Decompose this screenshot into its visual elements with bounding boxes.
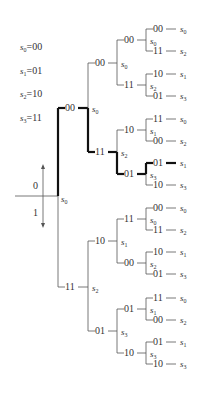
svg-text:11: 11 (95, 146, 105, 157)
svg-text:00: 00 (124, 34, 134, 45)
state-l4-8: s0 (180, 203, 187, 214)
branch-l4-8: 00 (153, 202, 163, 213)
root-state-label: s0 (61, 194, 68, 205)
state-l1-1: s2 (92, 283, 99, 294)
root-axis: 0 1 s0 (15, 164, 68, 228)
legend-s2: s2=10 (20, 88, 42, 100)
legend-s1: s1=01 (20, 65, 42, 77)
state-l4-12: s0 (180, 293, 187, 304)
level-2: 00 s0 11 s2 10 s1 01 s3 (88, 57, 128, 338)
level-3: 00 s0 11 s2 10 s1 01 s3 11 s0 00 s2 01 s… (117, 34, 157, 360)
branch-l4-15: 10 (153, 358, 163, 369)
state-l4-4: s0 (180, 114, 187, 125)
legend-s0: s0=00 (20, 41, 42, 53)
branch-l1-0: 00 (65, 102, 75, 113)
svg-text:s0: s0 (121, 59, 128, 70)
state-legend: s0=00 s1=01 s2=10 s3=11 (20, 41, 42, 124)
svg-text:s3: s3 (121, 327, 128, 338)
branch-l4-12: 11 (153, 292, 163, 303)
input-zero-label: 0 (33, 180, 38, 191)
branch-l4-13: 00 (153, 314, 163, 325)
branch-l4-0: 00 (153, 23, 163, 34)
state-l4-15: s3 (180, 359, 187, 370)
svg-text:00: 00 (95, 57, 105, 68)
arrow-down-icon (41, 223, 45, 228)
state-l4-7: s3 (180, 180, 187, 191)
state-l4-11: s3 (180, 269, 187, 280)
svg-text:11: 11 (124, 213, 134, 224)
branch-l4-4: 11 (153, 113, 163, 124)
branch-l4-14: 01 (153, 336, 163, 347)
svg-text:11: 11 (124, 79, 134, 90)
state-l4-13: s2 (180, 315, 187, 326)
svg-text:01: 01 (124, 303, 134, 314)
state-l4-9: s2 (180, 225, 187, 236)
state-l4-10: s1 (180, 247, 187, 258)
state-l4-3: s3 (180, 91, 187, 102)
state-l4-5: s2 (180, 136, 187, 147)
state-l4-0: s0 (180, 24, 187, 35)
branch-l4-7: 10 (153, 179, 163, 190)
svg-text:10: 10 (95, 235, 105, 246)
state-l4-2: s1 (180, 69, 187, 80)
svg-text:01: 01 (124, 168, 134, 179)
svg-text:10: 10 (124, 124, 134, 135)
branch-l4-1: 11 (153, 45, 163, 56)
svg-text:10: 10 (124, 347, 134, 358)
input-one-label: 1 (33, 207, 38, 218)
legend-s3: s3=11 (20, 112, 42, 124)
branch-l1-1: 11 (65, 281, 75, 292)
branch-l4-9: 11 (153, 224, 163, 235)
state-l4-1: s2 (180, 46, 187, 57)
state-l4-14: s1 (180, 337, 187, 348)
branch-l4-6: 01 (153, 157, 163, 168)
svg-text:s2: s2 (121, 148, 128, 159)
trellis-tree-diagram: s0=00 s1=01 s2=10 s3=11 0 1 s0 00 s0 11 … (0, 0, 199, 395)
arrow-up-icon (41, 164, 45, 169)
branch-l4-11: 01 (153, 268, 163, 279)
state-l1-0: s0 (92, 104, 99, 115)
svg-text:00: 00 (124, 257, 134, 268)
branch-l4-3: 01 (153, 90, 163, 101)
branch-l4-5: 00 (153, 135, 163, 146)
level-4: 00s011s210s101s311s000s201s110s300s011s2… (146, 23, 187, 370)
state-l4-6: s1 (180, 158, 187, 169)
svg-text:01: 01 (95, 325, 105, 336)
svg-text:s1: s1 (121, 237, 128, 248)
branch-l4-2: 10 (153, 68, 163, 79)
branch-l4-10: 10 (153, 246, 163, 257)
